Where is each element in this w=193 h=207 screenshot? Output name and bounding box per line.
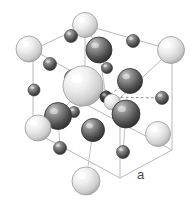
large-light-sphere — [63, 66, 103, 106]
specular-highlight-icon — [158, 94, 162, 97]
specular-highlight-icon — [56, 144, 60, 147]
atom-corner-back-top-right — [158, 37, 185, 64]
atom-edge-top-left — [65, 30, 78, 43]
atom-edge-right-upper — [156, 92, 169, 105]
specular-highlight-icon — [78, 173, 86, 179]
atom-dark-right-mid — [112, 100, 140, 128]
specular-highlight-icon — [91, 42, 99, 48]
small-dark-sphere — [54, 142, 67, 155]
specular-highlight-icon — [151, 127, 159, 133]
atom-corner-front-bot-left — [25, 115, 51, 141]
dark-sphere — [112, 100, 140, 128]
specular-highlight-icon — [123, 74, 131, 80]
light-sphere — [25, 115, 51, 141]
small-dark-sphere — [117, 146, 130, 159]
atom-corner-front-bot-mid — [72, 167, 100, 195]
lattice-figure: a — [0, 0, 193, 207]
dark-sphere — [118, 69, 143, 94]
atom-edge-top-right — [127, 35, 140, 48]
atom-corner-back-bot-right — [146, 122, 171, 147]
specular-highlight-icon — [163, 42, 171, 48]
atom-edge-mid-top — [102, 63, 113, 74]
atom-dark-top-center — [86, 37, 112, 63]
light-sphere — [158, 37, 185, 64]
small-dark-sphere — [102, 63, 113, 74]
specular-highlight-icon — [107, 97, 112, 101]
specular-highlight-icon — [50, 108, 58, 114]
specular-highlight-icon — [129, 37, 133, 40]
specular-highlight-icon — [21, 41, 29, 47]
lattice-svg-canvas — [0, 0, 193, 207]
small-dark-sphere — [44, 58, 57, 71]
dark-sphere — [82, 119, 105, 142]
small-dark-sphere — [65, 30, 78, 43]
specular-highlight-icon — [118, 106, 126, 112]
atom-edge-left-upper — [44, 58, 57, 71]
small-dark-sphere — [127, 35, 140, 48]
specular-highlight-icon — [71, 74, 83, 83]
specular-highlight-icon — [119, 148, 123, 151]
specular-highlight-icon — [46, 60, 50, 63]
light-sphere — [146, 122, 171, 147]
specular-highlight-icon — [86, 123, 93, 128]
atom-edge-bottom-right — [117, 146, 130, 159]
atom-edge-left-lower — [28, 84, 40, 96]
lattice-constant-label: a — [137, 168, 144, 181]
light-sphere — [16, 36, 42, 62]
small-dark-sphere — [156, 92, 169, 105]
light-sphere — [72, 167, 100, 195]
specular-highlight-icon — [67, 32, 71, 35]
atom-edge-bottom-left — [54, 142, 67, 155]
dark-sphere — [86, 37, 112, 63]
specular-highlight-icon — [71, 109, 74, 111]
atom-corner-front-top-left — [16, 36, 42, 62]
specular-highlight-icon — [30, 87, 34, 90]
specular-highlight-icon — [102, 94, 106, 97]
specular-highlight-icon — [104, 65, 107, 67]
small-dark-sphere — [28, 84, 40, 96]
atom-face-center-front — [63, 66, 103, 106]
specular-highlight-icon — [78, 18, 86, 24]
atom-dark-center-low — [82, 119, 105, 142]
specular-highlight-icon — [30, 120, 38, 126]
atom-dark-right-upper — [118, 69, 143, 94]
